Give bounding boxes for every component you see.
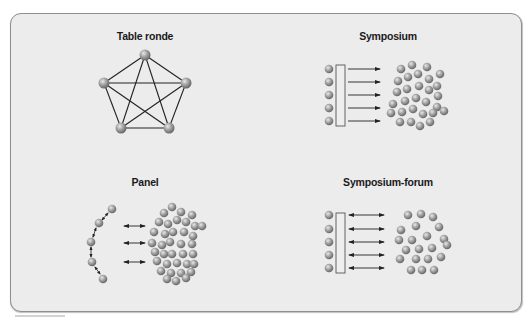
audience-ball — [414, 70, 423, 79]
speaker-ball — [325, 238, 334, 247]
podium-table — [336, 65, 345, 126]
audience-ball — [387, 109, 396, 118]
audience-ball — [412, 222, 421, 231]
audience-ball — [428, 244, 437, 253]
audience-ball — [437, 253, 446, 262]
speaker-link — [95, 267, 100, 274]
audience-ball — [418, 266, 427, 275]
audience-ball — [401, 97, 410, 106]
audience-ball — [398, 108, 407, 117]
audience-ball — [163, 275, 172, 284]
audience-ball — [443, 241, 452, 250]
star-edge — [121, 83, 186, 128]
audience-ball — [394, 77, 403, 86]
audience-ball — [158, 241, 167, 250]
audience-ball — [389, 100, 398, 109]
audience-ball — [433, 82, 442, 91]
audience-ball — [155, 218, 164, 227]
pentagon-edge — [145, 55, 186, 83]
audience-ball — [425, 75, 434, 84]
audience-ball — [157, 267, 166, 276]
speaker-ball — [325, 225, 334, 234]
pentagon-edge — [169, 83, 186, 128]
speaker-ball — [325, 78, 334, 87]
participant-ball — [164, 123, 175, 134]
panelist-ball — [99, 275, 108, 284]
audience-ball — [426, 118, 435, 127]
audience-ball — [393, 88, 402, 97]
audience-ball — [423, 63, 432, 72]
panelist-ball — [95, 219, 104, 228]
audience-ball — [407, 118, 416, 127]
speaker-ball — [325, 104, 334, 113]
pentagon-edge — [104, 83, 121, 128]
audience-ball — [416, 122, 425, 131]
audience-ball — [408, 236, 417, 245]
audience-ball — [417, 210, 426, 219]
speaker-link — [93, 228, 96, 237]
diagram-canvas — [0, 0, 530, 322]
audience-ball — [415, 82, 424, 91]
speaker-ball — [325, 211, 334, 220]
communication-formats-figure: Table ronde Symposium Panel Symposium-fo… — [0, 0, 530, 322]
participant-ball — [116, 123, 127, 134]
participant-ball — [181, 78, 192, 89]
table-ronde-diagram — [99, 50, 192, 134]
audience-ball — [419, 110, 428, 119]
audience-ball — [404, 73, 413, 82]
pentagon-edge — [104, 55, 145, 83]
speaker-ball — [325, 117, 334, 126]
audience-ball — [153, 257, 162, 266]
audience-ball — [395, 236, 404, 245]
audience-ball — [412, 94, 421, 103]
speaker-ball — [325, 251, 334, 260]
audience-ball — [440, 107, 449, 116]
symposium-diagram — [325, 61, 449, 131]
panelist-ball — [87, 238, 96, 247]
podium-table — [336, 213, 345, 273]
panelist-ball — [108, 205, 117, 214]
speaker-ball — [325, 91, 334, 100]
audience-ball — [397, 65, 406, 74]
speaker-ball — [325, 65, 334, 74]
panelist-ball — [88, 258, 97, 267]
audience-ball — [180, 228, 189, 237]
audience-ball — [422, 98, 431, 107]
audience-ball — [166, 238, 175, 247]
participant-ball — [140, 50, 151, 61]
audience-ball — [164, 220, 173, 229]
star-edge — [104, 83, 169, 128]
audience-ball — [168, 250, 177, 259]
audience-ball — [161, 230, 170, 239]
audience-ball — [173, 216, 182, 225]
participant-ball — [99, 78, 110, 89]
audience-ball — [396, 255, 405, 264]
audience-ball — [407, 266, 416, 275]
audience-ball — [424, 255, 433, 264]
audience-ball — [435, 223, 444, 232]
audience-ball — [150, 228, 159, 237]
audience-ball — [408, 61, 417, 70]
speaker-ball — [325, 264, 334, 273]
audience-ball — [397, 226, 406, 235]
audience-ball — [160, 209, 169, 218]
audience-ball — [396, 118, 405, 127]
audience-ball — [189, 250, 198, 259]
audience-ball — [434, 92, 443, 101]
speaker-link — [102, 213, 108, 220]
audience-ball — [168, 203, 177, 212]
audience-ball — [182, 218, 191, 227]
audience-ball — [403, 85, 412, 94]
audience-ball — [188, 240, 197, 249]
audience-ball — [412, 255, 421, 264]
audience-ball — [409, 105, 418, 114]
audience-ball — [151, 248, 160, 257]
audience-ball — [429, 109, 438, 118]
audience-ball — [172, 277, 181, 286]
audience-ball — [177, 240, 186, 249]
audience-ball — [415, 245, 424, 254]
audience-ball — [163, 260, 172, 269]
audience-ball — [182, 274, 191, 283]
star-edge — [121, 55, 145, 128]
audience-ball — [169, 228, 178, 237]
